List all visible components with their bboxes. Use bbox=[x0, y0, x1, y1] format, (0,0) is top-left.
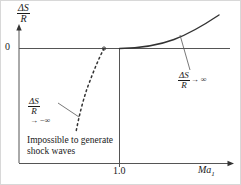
impossible-region-note-line-1: Impossible to generate bbox=[27, 135, 113, 145]
right-annotation-fraction: ΔS R bbox=[178, 71, 190, 90]
y-axis-label-fraction: ΔS R bbox=[17, 3, 30, 24]
right-annotation-leader-line bbox=[180, 35, 190, 70]
subsonic-entropy-dashed-curve bbox=[76, 49, 104, 133]
supersonic-entropy-curve bbox=[120, 15, 220, 49]
x-axis-label-subscript: 1 bbox=[211, 170, 215, 178]
left-annotation-fraction: ΔS R bbox=[28, 97, 40, 116]
y-axis-label-denominator: R bbox=[17, 14, 30, 24]
x-axis-arrowhead bbox=[228, 161, 235, 166]
left-limit-annotation: ΔS R → −∞ bbox=[28, 97, 50, 125]
y-axis-zero-label: 0 bbox=[5, 42, 10, 53]
left-annotation-limit: → −∞ bbox=[30, 117, 50, 125]
right-annotation-limit: → ∞ bbox=[190, 76, 207, 84]
impossible-region-note: Impossible to generate shock waves bbox=[27, 135, 113, 157]
impossible-region-note-line-2: shock waves bbox=[27, 146, 75, 156]
x-axis-label-base: Ma bbox=[198, 164, 211, 175]
y-axis-label: ΔS R bbox=[17, 3, 30, 24]
left-annotation-denominator: R bbox=[28, 107, 40, 116]
x-axis-tick-label-mach-one: 1.0 bbox=[113, 166, 126, 177]
chart-canvas bbox=[0, 0, 241, 185]
x-axis-label: Ma1 bbox=[198, 165, 215, 178]
figure-border bbox=[1, 1, 241, 185]
shock-wave-entropy-chart: ΔS R 0 1.0 Ma1 ΔS R → −∞ ΔS R → ∞ Imposs… bbox=[0, 0, 241, 185]
right-limit-annotation: ΔS R → ∞ bbox=[178, 71, 207, 90]
right-annotation-denominator: R bbox=[178, 81, 190, 90]
y-axis-arrowhead bbox=[16, 24, 21, 31]
left-annotation-leader-line bbox=[58, 103, 79, 117]
